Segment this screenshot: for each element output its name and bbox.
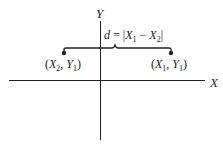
- formula-close: |: [161, 28, 163, 42]
- y-axis-label: Y: [96, 7, 103, 20]
- x-axis-label: X: [210, 76, 218, 89]
- left-point-dot: [62, 51, 66, 55]
- formula-x1: X: [125, 28, 132, 42]
- right-point-dot: [169, 51, 173, 55]
- paren-close: ): [77, 57, 81, 71]
- paren-close: ): [183, 57, 187, 71]
- formula-x2: X: [149, 28, 156, 42]
- distance-formula: d = |X1 − X2|: [104, 29, 163, 44]
- distance-brace: [64, 45, 171, 53]
- left-point-label: (X2, Y1): [45, 58, 81, 73]
- right-point-label: (X1, Y1): [151, 58, 187, 73]
- coordinate-diagram: [0, 0, 223, 147]
- formula-eq: = |: [110, 28, 125, 42]
- formula-minus: −: [137, 28, 150, 42]
